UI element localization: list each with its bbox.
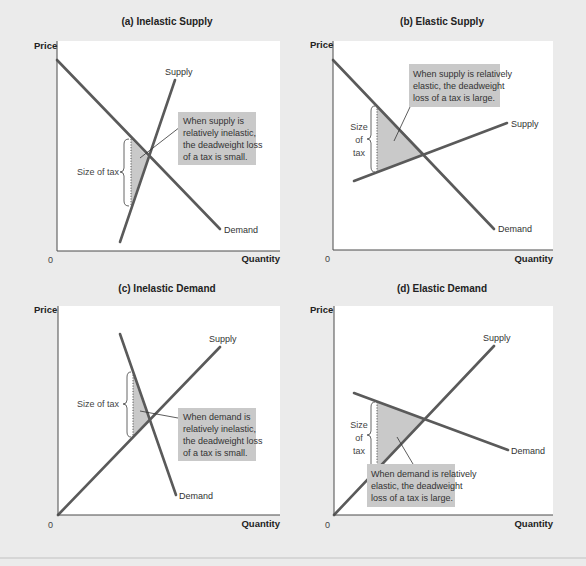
callout-line: elastic, the deadweight bbox=[413, 81, 505, 91]
size-of-tax-label: Size bbox=[350, 420, 368, 430]
size-of-tax-label: of bbox=[355, 433, 363, 443]
panel-title: (c) Inelastic Demand bbox=[118, 283, 215, 294]
demand-label: Demand bbox=[179, 491, 213, 501]
size-of-tax-label: Size bbox=[350, 122, 368, 132]
callout-line: elastic, the deadweight bbox=[371, 481, 463, 491]
callout-line: the deadweight loss bbox=[183, 140, 263, 150]
x-axis-label: Quantity bbox=[241, 253, 280, 264]
size-of-tax-label: Size of tax bbox=[77, 167, 120, 177]
callout-line: When supply is bbox=[183, 116, 245, 126]
panel-title: (b) Elastic Supply bbox=[400, 16, 484, 27]
supply-label: Supply bbox=[209, 334, 237, 344]
callout-line: loss of a tax is large. bbox=[413, 93, 495, 103]
y-axis-label: Price bbox=[34, 40, 57, 51]
callout-line: loss of a tax is large. bbox=[371, 493, 453, 503]
demand-label: Demand bbox=[498, 224, 532, 234]
size-of-tax-label: of bbox=[355, 135, 363, 145]
origin-label: 0 bbox=[325, 254, 330, 264]
origin-label: 0 bbox=[48, 520, 53, 530]
panel-title: (d) Elastic Demand bbox=[397, 283, 487, 294]
callout-line: of a tax is small. bbox=[183, 152, 248, 162]
y-axis-label: Price bbox=[310, 304, 333, 315]
callout-line: When demand is relatively bbox=[371, 469, 477, 479]
callout-line: When supply is relatively bbox=[413, 69, 513, 79]
x-axis-label: Quantity bbox=[514, 253, 553, 264]
origin-label: 0 bbox=[325, 520, 330, 530]
size-of-tax-label: tax bbox=[353, 148, 366, 158]
origin-label: 0 bbox=[48, 255, 53, 265]
callout-line: relatively inelastic, bbox=[183, 424, 256, 434]
supply-label: Supply bbox=[165, 67, 193, 77]
panel-a-inelastic-supply: (a) Inelastic Supply Size of tax Supply … bbox=[34, 16, 281, 265]
demand-label: Demand bbox=[511, 446, 545, 456]
x-axis-label: Quantity bbox=[514, 518, 553, 529]
panel-b-elastic-supply: (b) Elastic Supply Size of tax Supply De… bbox=[310, 16, 554, 264]
x-axis-label: Quantity bbox=[241, 518, 280, 529]
y-axis-label: Price bbox=[34, 304, 57, 315]
callout-line: relatively inelastic, bbox=[183, 128, 256, 138]
panel-c-inelastic-demand: (c) Inelastic Demand Size of tax Supply … bbox=[34, 283, 281, 530]
supply-label: Supply bbox=[511, 119, 539, 129]
tax-deadweight-loss-figure: (a) Inelastic Supply Size of tax Supply … bbox=[0, 0, 586, 566]
panel-title: (a) Inelastic Supply bbox=[121, 16, 213, 27]
callout-line: the deadweight loss bbox=[183, 436, 263, 446]
callout-line: When demand is bbox=[183, 412, 251, 422]
panel-d-elastic-demand: (d) Elastic Demand Size of tax Supply De… bbox=[310, 283, 554, 530]
callout-line: of a tax is small. bbox=[183, 448, 248, 458]
supply-label: Supply bbox=[483, 333, 511, 343]
y-axis-label: Price bbox=[310, 39, 333, 50]
size-of-tax-label: tax bbox=[353, 446, 366, 456]
size-of-tax-label: Size of tax bbox=[77, 399, 120, 409]
demand-label: Demand bbox=[224, 225, 258, 235]
